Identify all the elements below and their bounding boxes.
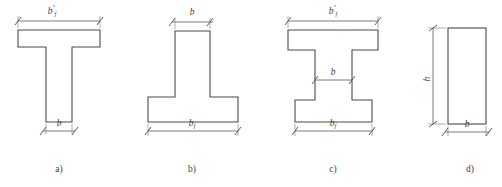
rectangular-section-outline [448, 28, 486, 124]
dimension-a-top-flange-width: b′f [15, 3, 103, 28]
figure-canvas: b′f b a) b [0, 0, 502, 187]
dimension-b-web-width: b [169, 7, 213, 29]
caption-a: a) [55, 164, 62, 175]
section-c-group: b′f b bf c) [285, 3, 381, 175]
beam-section-figure: b′f b a) b [0, 0, 502, 187]
dimension-label-c-middle: b [331, 67, 336, 77]
caption-d: d) [466, 164, 474, 175]
dimension-d-section-height: h [422, 25, 446, 127]
dimension-label-d-height: h [422, 76, 432, 81]
dimension-label-d-bottom: b [465, 119, 470, 129]
dimension-c-top-flange-width: b′f [285, 3, 381, 28]
caption-c: c) [329, 164, 336, 175]
section-a-group: b′f b a) [15, 3, 103, 175]
inverted-t-section-outline [148, 31, 238, 122]
dimension-label-c-top: b′f [329, 3, 339, 17]
caption-b: b) [188, 164, 196, 175]
section-d-group: h b d) [422, 25, 492, 175]
section-b-group: b bf b) [145, 7, 241, 175]
dimension-label-a-bottom: b [57, 118, 62, 128]
dimension-label-b-top: b [190, 7, 195, 17]
dimension-label-a-top: b′f [48, 3, 58, 17]
t-section-outline [18, 30, 100, 122]
